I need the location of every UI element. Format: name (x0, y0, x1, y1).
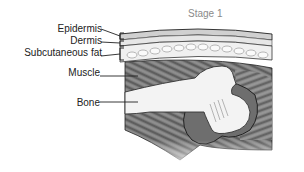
pressure-ulcer-stage1-illustration (0, 0, 304, 172)
